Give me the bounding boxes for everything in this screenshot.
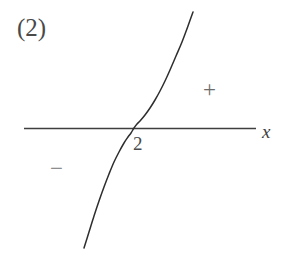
sign-chart-figure: (2) x 2 + −: [0, 0, 286, 267]
x-axis-label: x: [262, 122, 270, 141]
negative-sign-annotation: −: [50, 157, 63, 180]
x-intercept-tick-label: 2: [133, 134, 143, 153]
cubic-curve-path: [84, 12, 193, 248]
panel-number-label: (2): [17, 15, 46, 40]
positive-sign-annotation: +: [203, 78, 216, 101]
